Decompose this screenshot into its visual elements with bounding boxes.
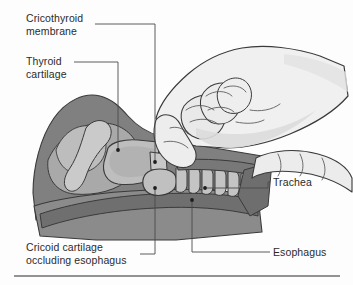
trachea-ring <box>176 167 187 193</box>
anatomical-figure: Cricothyroid membrane Thyroid cartilage … <box>0 0 353 285</box>
label-esophagus: Esophagus <box>273 246 326 259</box>
marker-thyroid-cartilage <box>116 148 120 152</box>
cricoid-cartilage-shape <box>143 169 177 196</box>
marker-cricoid-cartilage <box>153 186 157 190</box>
trachea-ring <box>215 169 226 196</box>
ring-finger <box>217 78 251 113</box>
marker-cricothyroid-membrane <box>153 160 157 164</box>
trachea-ring <box>189 167 200 194</box>
label-trachea: Trachea <box>273 176 312 189</box>
marker-esophagus <box>190 198 194 202</box>
label-cricoid-cartilage-occluding-esophagus: Cricoid cartilage occluding esophagus <box>26 241 127 266</box>
label-cricothyroid-membrane: Cricothyroid membrane <box>26 12 83 37</box>
trachea-ring <box>202 168 213 195</box>
label-thyroid-cartilage: Thyroid cartilage <box>26 55 67 80</box>
marker-trachea <box>203 186 207 190</box>
trachea-ring <box>228 171 239 197</box>
